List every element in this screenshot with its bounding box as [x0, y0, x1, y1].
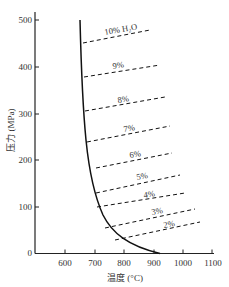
- x-tick-1100: 1100: [204, 258, 222, 268]
- x-tick-900: 900: [147, 258, 161, 268]
- y-tick-0: 0: [28, 248, 33, 258]
- x-tick-1000: 1000: [174, 258, 193, 268]
- chart: 500 400 300 200 100 0 600 700 800 900 10…: [0, 0, 229, 287]
- label-10: 10% H₂O: [104, 21, 138, 37]
- label-7: 7%: [123, 122, 136, 134]
- label-3: 3%: [150, 205, 163, 217]
- x-tick-700: 700: [88, 258, 102, 268]
- x-tick-labels: 600 700 800 900 1000 1100: [58, 258, 222, 268]
- label-5: 5%: [135, 170, 148, 182]
- y-axis-label: 压力 (MPa): [5, 108, 16, 151]
- isopleth-2: [115, 222, 200, 240]
- x-tick-800: 800: [117, 258, 131, 268]
- label-9: 9%: [112, 59, 125, 71]
- isopleth-4: [97, 193, 185, 207]
- y-tick-400: 400: [19, 62, 33, 72]
- label-4: 4%: [143, 188, 156, 200]
- label-8: 8%: [117, 93, 130, 105]
- y-tick-100: 100: [19, 202, 33, 212]
- label-6: 6%: [129, 148, 142, 160]
- label-2: 2%: [162, 218, 175, 230]
- y-tick-200: 200: [19, 155, 33, 165]
- y-tick-labels: 500 400 300 200 100 0: [19, 15, 33, 258]
- isopleth-3: [105, 209, 195, 228]
- x-tick-600: 600: [58, 258, 72, 268]
- y-tick-500: 500: [19, 15, 33, 25]
- isopleth-labels: 10% H₂O 9% 8% 7% 6% 5% 4% 3% 2%: [104, 21, 176, 230]
- y-tick-300: 300: [19, 109, 33, 119]
- x-axis-label: 温度 (°C): [107, 272, 143, 283]
